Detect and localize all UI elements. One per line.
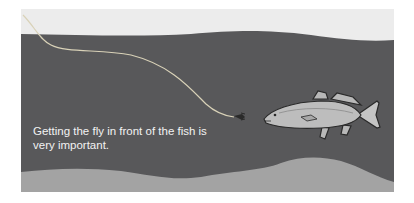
fishing-illustration: Getting the fly in front of the fish is … (21, 9, 394, 192)
caption: Getting the fly in front of the fish is … (33, 124, 223, 152)
scene-graphic (21, 9, 394, 192)
caption-line-1: Getting the fly in front of the fish is (33, 124, 223, 138)
caption-line-2: very important. (33, 138, 223, 152)
